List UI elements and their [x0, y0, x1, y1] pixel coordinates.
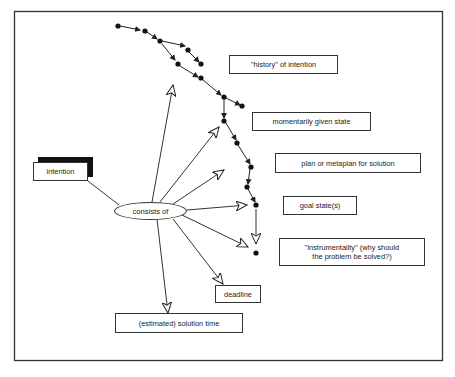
plan-label: plan or metaplan for solution — [301, 159, 394, 168]
goal-state-node: goal state(s) — [283, 196, 357, 215]
instrumentality-label-line2: the problem be solved?) — [312, 252, 391, 261]
deadline-label: deadline — [224, 290, 252, 299]
intention-node: intention — [33, 162, 88, 181]
consists-of-node: consists of — [114, 202, 187, 220]
instrumentality-label-line1: "instrumentality" (why should — [305, 243, 399, 252]
arrow-to-deadline — [173, 219, 223, 284]
momentary-state-node: momentarily given state — [252, 112, 371, 131]
arrow-to-momentary-state — [160, 127, 219, 202]
deadline-node: deadline — [215, 285, 261, 303]
arrow-to-history — [152, 85, 173, 202]
solution-time-label: (estimated) solution time — [139, 319, 220, 328]
history-node: "history" of intention — [229, 55, 338, 74]
instrumentality-node: "instrumentality" (why should the proble… — [279, 238, 425, 266]
intention-structure-diagram: intention consists of "history" of inten… — [0, 0, 455, 377]
consists-of-label: consists of — [133, 207, 169, 216]
momentary-state-label: momentarily given state — [272, 117, 350, 126]
arrow-to-goal-state — [187, 205, 247, 210]
plan-node: plan or metaplan for solution — [275, 153, 421, 173]
truncated-caption — [85, 372, 285, 377]
history-label: "history" of intention — [251, 60, 316, 69]
arrow-to-solution-time — [157, 219, 168, 313]
intention-label: intention — [47, 167, 75, 176]
solution-time-node: (estimated) solution time — [115, 313, 243, 333]
goal-state-label: goal state(s) — [300, 201, 341, 210]
arrow-to-instrumentality — [182, 215, 248, 247]
